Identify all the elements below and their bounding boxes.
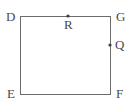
point-q-dot (108, 43, 111, 46)
vertex-label-d: D (6, 10, 15, 23)
geometry-figure: D G E F R Q (0, 0, 135, 112)
vertex-label-e: E (7, 87, 15, 100)
vertex-label-f: F (116, 87, 123, 100)
point-label-q: Q (115, 38, 124, 51)
point-label-r: R (64, 18, 73, 31)
vertex-label-g: G (116, 10, 125, 23)
